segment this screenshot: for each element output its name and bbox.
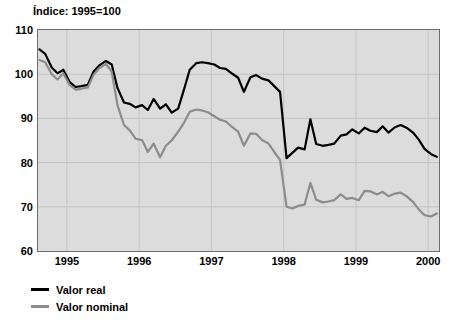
data-series-line [39,60,436,216]
legend-item: Valor nominal [31,298,231,315]
legend-color-swatch [31,288,49,291]
x-axis-tick-label: 1999 [326,255,386,267]
x-axis-tick-label: 1996 [109,255,169,267]
y-axis-tick-label: 100 [3,69,33,80]
x-axis-tick-label: 1998 [254,255,314,267]
series-canvas [38,30,439,251]
y-axis-tick-label: 90 [3,113,33,124]
legend-item-label: Valor nominal [56,301,128,313]
legend-item: Valor real [31,281,231,298]
y-axis-tick-label: 80 [3,158,33,169]
x-axis-tick-label: 1997 [181,255,241,267]
chart-container: Índice: 1995=100 60708090100110 19951996… [0,0,458,321]
y-axis-tick-label: 60 [3,246,33,257]
chart-legend: Valor realValor nominal [31,281,231,315]
x-axis-tick-label: 1995 [37,255,97,267]
plot-area [37,29,440,252]
y-axis: 60708090100110 [0,0,33,321]
legend-item-label: Valor real [56,284,106,296]
x-axis-tick-label: 2000 [398,255,458,267]
y-axis-tick-label: 70 [3,202,33,213]
data-series-line [39,49,436,158]
y-axis-tick-label: 110 [3,25,33,36]
chart-title: Índice: 1995=100 [33,5,121,17]
legend-color-swatch [31,305,49,308]
